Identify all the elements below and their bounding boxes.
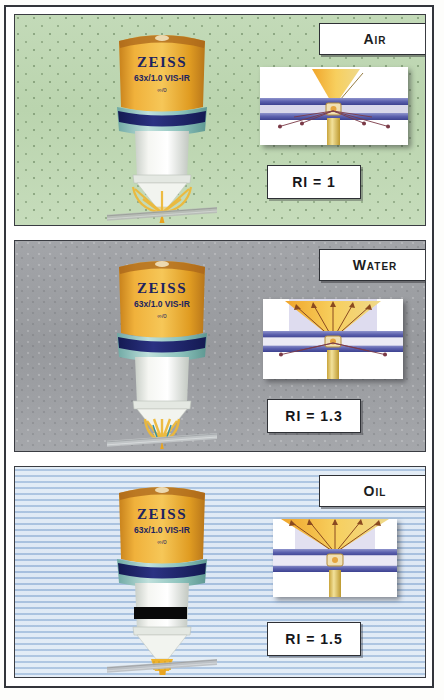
media-label-air: Air [319,23,426,55]
figure-root: Air RI = 1 [0,0,444,700]
media-label-water: Water [319,249,426,281]
objective-water: ZEISS 63x/1.0 VIS-IR ∞/0 [107,249,217,449]
inset-ray-diagram-water [263,299,403,379]
panel-stack: Air RI = 1 [14,14,426,678]
objective-brand-oil: ZEISS [137,506,187,522]
inset-ray-diagram-oil [273,519,397,597]
panel-air: Air RI = 1 [14,14,426,226]
ri-box-water: RI = 1.3 [267,399,361,433]
objective-spec-water: 63x/1.0 VIS-IR [134,299,190,309]
objective-tube-oil: ∞/0 [157,539,167,545]
objective-oil: ZEISS 63x/1.0 VIS-IR ∞/0 [107,475,217,675]
objective-spec-air: 63x/1.0 VIS-IR [134,73,190,83]
objective-air: ZEISS 63x/1.0 VIS-IR ∞/0 [107,23,217,223]
panel-oil: Oil RI = 1.5 ZEISS 63x/1.0 VIS-IR ∞/0 [14,466,426,678]
objective-tube-water: ∞/0 [157,313,167,319]
objective-brand-water: ZEISS [137,280,187,296]
panel-water: Water RI = 1.3 ZEISS 63x/1.0 VIS-IR ∞/0 [14,240,426,452]
objective-black-band-oil [134,607,187,619]
objective-brand-air: ZEISS [137,54,187,70]
ri-box-air: RI = 1 [267,165,361,199]
media-label-oil: Oil [319,475,426,507]
inset-ray-diagram-air [260,67,408,145]
objective-spec-oil: 63x/1.0 VIS-IR [134,525,190,535]
objective-tube-air: ∞/0 [157,87,167,93]
ri-box-oil: RI = 1.5 [267,622,361,656]
